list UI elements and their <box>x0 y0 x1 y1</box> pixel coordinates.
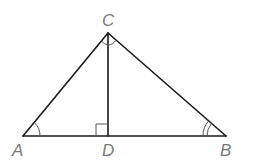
label-d: D <box>102 141 114 160</box>
segment-ac <box>23 33 108 136</box>
label-a: A <box>11 141 23 160</box>
geometry-diagram: C A D B <box>0 0 254 163</box>
label-c: C <box>102 11 115 30</box>
angle-a-arc-icon <box>34 123 40 137</box>
angle-c-right-arc-icon <box>108 40 116 45</box>
right-angle-icon <box>96 124 108 136</box>
angle-b-arc-outer-icon <box>203 121 209 136</box>
segment-cb <box>108 33 226 136</box>
angle-b-arc-inner-icon <box>207 124 212 137</box>
label-b: B <box>220 141 231 160</box>
angle-c-left-arc-icon <box>102 41 109 45</box>
